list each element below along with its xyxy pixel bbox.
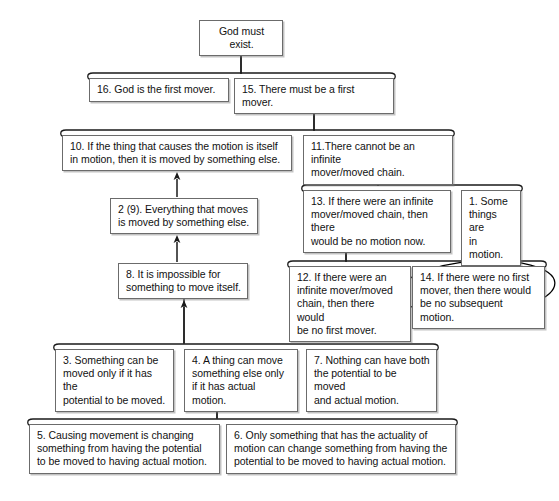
claim-box-n14: 14. If there were no first mover, then t… [412, 266, 545, 329]
claim-box-n5: 5. Causing movement is changing somethin… [29, 424, 220, 474]
argument-diagram: God must exist.16. God is the first move… [0, 0, 559, 501]
claim-box-n13: 13. If there were an infinite mover/move… [303, 190, 451, 253]
claim-box-n10: 10. If the thing that causes the motion … [62, 135, 292, 171]
arrow-to-10-head [174, 172, 181, 180]
claim-box-n12: 12. If there were an infinite mover/move… [289, 266, 411, 342]
claim-box-n2: 2 (9). Everything that moves is moved by… [110, 198, 258, 234]
claim-box-n16: 16. God is the first mover. [89, 78, 229, 102]
claim-box-n1: 1. Some things are in motion. [461, 190, 521, 266]
arrow-to-8-head [181, 300, 188, 308]
claim-box-n7: 7. Nothing can have both the potential t… [306, 349, 437, 412]
claim-box-n6: 6. Only something that has the actuality… [226, 424, 456, 474]
claim-box-n17: God must exist. [199, 20, 283, 56]
claim-box-n11: 11.There cannot be an infinite mover/mov… [303, 135, 453, 185]
claim-box-n8: 8. It is impossible for something to mov… [118, 263, 248, 299]
claim-box-n15: 15. There must be a first mover. [234, 78, 394, 114]
claim-box-n3: 3. Something can be moved only if it has… [55, 349, 174, 412]
claim-box-n4: 4. A thing can move something else only … [184, 349, 298, 412]
arrow-to-2-head [174, 235, 181, 243]
